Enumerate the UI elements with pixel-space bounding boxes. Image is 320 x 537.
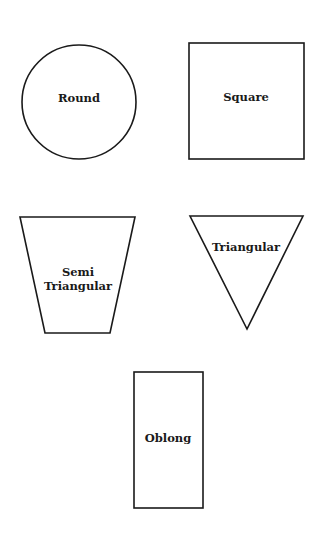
semi-triangular-label: Semi Triangular	[44, 265, 112, 293]
triangular-shape	[190, 216, 303, 329]
square-label: Square	[223, 90, 269, 104]
semi-triangular-label-line2: Triangular	[44, 279, 112, 293]
triangular-label: Triangular	[212, 240, 280, 254]
round-label: Round	[58, 91, 100, 105]
oblong-label: Oblong	[145, 431, 192, 445]
semi-triangular-label-line1: Semi	[44, 265, 112, 279]
